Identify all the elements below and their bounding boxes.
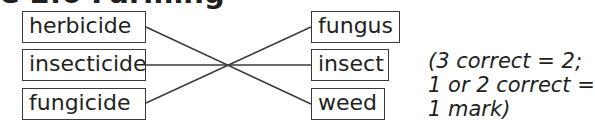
left-item-fungicide: fungicide — [22, 88, 146, 120]
left-item-herbicide: herbicide — [22, 11, 146, 43]
right-item-weed: weed — [311, 88, 385, 120]
left-item-insecticide: insecticide — [22, 49, 146, 81]
right-item-fungus: fungus — [311, 11, 400, 43]
right-item-insect: insect — [311, 49, 389, 81]
